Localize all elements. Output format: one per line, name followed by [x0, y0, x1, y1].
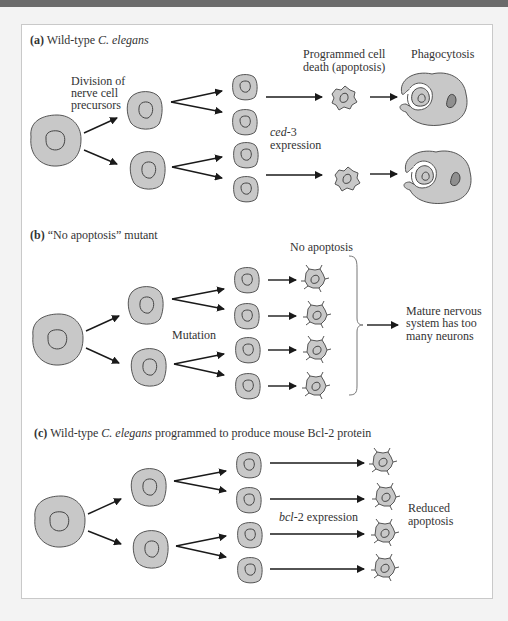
surviving-neuron — [371, 554, 399, 581]
label-division: Division of nerve cell precursors — [71, 74, 128, 112]
panel-b-title: (b) “No apoptosis” mutant — [30, 228, 158, 242]
neuron-cell — [236, 374, 261, 399]
neuron-cell — [233, 75, 258, 100]
apoptotic-cell — [332, 86, 357, 110]
surviving-neuron — [372, 483, 400, 510]
daughter-cell — [131, 469, 166, 507]
label-bcl2-expression: bcl-2 expression — [279, 510, 358, 524]
panel-b: (b) “No apoptosis” mutant No apoptosis M… — [30, 228, 485, 399]
label-phagocytosis: Phagocytosis — [411, 47, 475, 61]
daughter-cell — [133, 531, 168, 569]
surviving-neuron — [303, 336, 331, 363]
label-mutation: Mutation — [172, 328, 216, 342]
panel-a: (a) Wild-type C. elegans Division of ner… — [30, 33, 475, 204]
label-reduced-apoptosis: Reduced apoptosis — [408, 501, 454, 528]
label-no-apoptosis: No apoptosis — [290, 240, 353, 254]
precursor-cell — [33, 314, 83, 365]
neuron-cell — [233, 110, 258, 135]
neuron-cell — [237, 488, 262, 513]
surviving-neuron — [303, 301, 331, 328]
label-programmed-death: Programmed cell death (apoptosis) — [303, 47, 388, 74]
phagocyte-cell — [404, 151, 471, 204]
apoptotic-cell — [335, 167, 360, 191]
precursor-cell — [35, 496, 85, 547]
precursor-cell — [31, 115, 81, 166]
panel-c-title: (c) Wild-type C. elegans programmed to p… — [34, 426, 371, 440]
surviving-neuron — [369, 448, 397, 475]
bracket — [349, 256, 363, 395]
daughter-cell — [131, 349, 166, 387]
panel-c: (c) Wild-type C. elegans programmed to p… — [34, 426, 454, 583]
daughter-cell — [128, 287, 163, 325]
surviving-neuron — [301, 265, 329, 292]
neuron-cell — [235, 268, 260, 293]
label-ced3-expression: ced-3 expression — [270, 125, 321, 152]
surviving-neuron — [302, 372, 330, 399]
neuron-cell — [238, 523, 263, 548]
neuron-cell — [238, 558, 263, 583]
phagocyte-cell — [400, 73, 467, 126]
apoptosis-diagram: (a) Wild-type C. elegans Division of ner… — [0, 0, 508, 621]
neuron-cell — [237, 453, 262, 478]
panel-a-title: (a) Wild-type C. elegans — [30, 33, 149, 47]
neuron-cell — [236, 338, 261, 363]
daughter-cell — [127, 92, 162, 130]
neuron-cell — [234, 143, 259, 168]
daughter-cell — [130, 152, 165, 190]
label-too-many-neurons: Mature nervous system has too many neuro… — [406, 304, 485, 343]
neuron-cell — [234, 177, 259, 202]
surviving-neuron — [371, 519, 399, 546]
neuron-cell — [235, 304, 260, 329]
